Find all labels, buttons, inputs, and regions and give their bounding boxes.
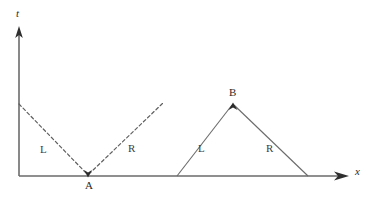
- x-axis: [19, 172, 349, 181]
- point-b-marker: [229, 103, 238, 111]
- characteristics-diagram: t x A B L R L R: [0, 0, 374, 197]
- solid-branch-left: [177, 105, 232, 176]
- solid-branch-left-label: L: [198, 143, 205, 154]
- point-b-label: B: [229, 87, 236, 98]
- dashed-branch-left: [19, 104, 87, 174]
- dashed-branch-right-label: R: [128, 143, 135, 154]
- x-axis-label: x: [355, 166, 360, 177]
- converging-characteristics: [19, 103, 163, 174]
- solid-branch-right-label: R: [266, 143, 273, 154]
- point-a-label: A: [85, 180, 93, 191]
- t-axis-label: t: [16, 8, 19, 19]
- solid-branch-right: [234, 105, 308, 176]
- diverging-characteristics: [177, 105, 308, 176]
- dashed-branch-left-label: L: [40, 144, 47, 155]
- dashed-branch-right: [89, 103, 163, 174]
- t-axis: [15, 26, 23, 176]
- diagram-canvas: [0, 0, 374, 197]
